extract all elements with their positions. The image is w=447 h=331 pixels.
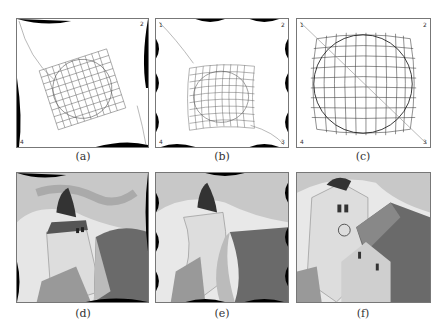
church-photo-f bbox=[297, 173, 430, 302]
panel-a-grid-rotated: 2 4 bbox=[16, 18, 149, 148]
corner-label-2: 2 bbox=[140, 21, 144, 27]
svg-text:2: 2 bbox=[423, 22, 427, 28]
svg-text:4: 4 bbox=[159, 139, 163, 145]
panel-b-grid-wavy: 1 2 3 4 bbox=[155, 18, 289, 148]
caption-d: (d) bbox=[16, 307, 150, 320]
caption-e: (e) bbox=[155, 307, 289, 320]
church-photo-e bbox=[156, 173, 288, 302]
svg-text:1: 1 bbox=[300, 22, 304, 28]
svg-text:4: 4 bbox=[300, 139, 304, 145]
svg-text:1: 1 bbox=[159, 22, 163, 28]
svg-text:2: 2 bbox=[281, 22, 285, 28]
panel-d-church-rotated bbox=[16, 172, 149, 303]
caption-b: (b) bbox=[155, 150, 289, 163]
svg-text:3: 3 bbox=[423, 139, 427, 145]
panel-c-grid-barrel: 1 2 3 4 bbox=[296, 18, 431, 148]
panel-e-church-wavy bbox=[155, 172, 289, 303]
caption-a: (a) bbox=[16, 150, 150, 163]
church-photo-d bbox=[17, 173, 148, 302]
caption-c: (c) bbox=[296, 150, 430, 163]
corner-label-4: 4 bbox=[20, 139, 24, 145]
caption-f: (f) bbox=[296, 307, 430, 320]
warped-grid-figure-b: 1 2 3 4 bbox=[156, 19, 288, 147]
svg-text:3: 3 bbox=[281, 139, 285, 145]
panel-f-church-barrel bbox=[296, 172, 431, 303]
warped-grid-figure-c: 1 2 3 4 bbox=[297, 19, 430, 147]
warped-grid-figure-a: 2 4 bbox=[17, 19, 148, 147]
